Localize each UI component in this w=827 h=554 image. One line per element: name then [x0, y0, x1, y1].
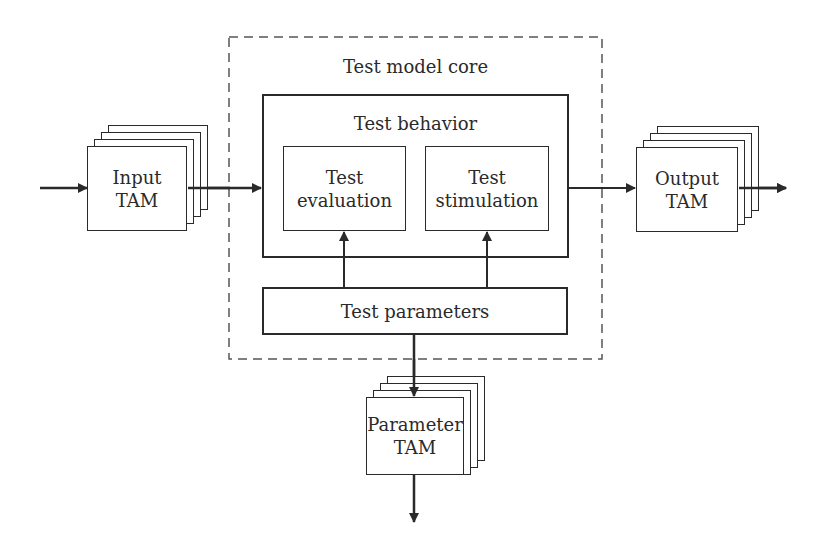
- test-evaluation-box[interactable]: Test evaluation: [283, 146, 406, 231]
- test-model-core-label: Test model core: [229, 55, 602, 78]
- output-tam-line1: Output: [655, 167, 719, 190]
- test-behavior-label: Test behavior: [264, 112, 567, 135]
- test-parameters-label: Test parameters: [341, 300, 490, 323]
- input-tam-box[interactable]: Input TAM: [87, 146, 187, 231]
- test-evaluation-line1: Test: [326, 166, 364, 189]
- parameter-tam-line1: Parameter: [367, 413, 463, 436]
- parameter-tam-box[interactable]: Parameter TAM: [366, 397, 464, 475]
- test-stimulation-line1: Test: [468, 166, 506, 189]
- parameter-tam-line2: TAM: [394, 436, 436, 459]
- input-tam-line1: Input: [112, 166, 161, 189]
- test-stimulation-line2: stimulation: [436, 189, 539, 212]
- output-tam-line2: TAM: [666, 190, 708, 213]
- output-tam-box[interactable]: Output TAM: [636, 147, 738, 232]
- input-tam-line2: TAM: [116, 189, 158, 212]
- test-parameters-box[interactable]: Test parameters: [262, 287, 568, 335]
- test-stimulation-box[interactable]: Test stimulation: [425, 146, 549, 231]
- test-evaluation-line2: evaluation: [297, 189, 392, 212]
